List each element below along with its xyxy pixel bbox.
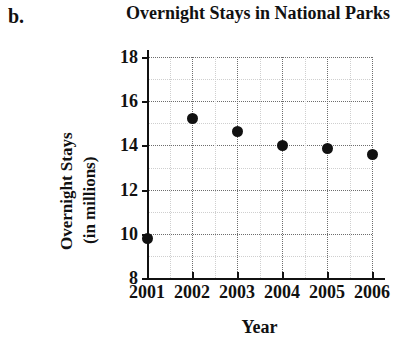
x-axis-tick-mark <box>147 272 149 278</box>
y-axis-tick-label: 18 <box>102 48 138 66</box>
y-axis-line <box>147 50 149 279</box>
part-label: b. <box>8 6 24 26</box>
data-point <box>367 149 378 160</box>
x-axis-title: Year <box>147 318 372 336</box>
data-point <box>232 126 243 137</box>
x-axis-tick-mark <box>372 272 374 278</box>
y-axis-tick-mark <box>142 57 148 59</box>
y-axis-tick-mark <box>142 234 148 236</box>
data-point <box>277 140 288 151</box>
y-axis-tick-mark <box>142 278 148 280</box>
plot-area <box>147 57 372 278</box>
y-axis-tick-label: 16 <box>102 92 138 110</box>
x-axis-tick-mark <box>237 272 239 278</box>
y-axis-title-line2: (in millions) <box>81 157 98 244</box>
y-axis-title-line1: Overnight Stays <box>58 132 75 250</box>
x-axis-tick-mark <box>327 272 329 278</box>
y-axis-tick-label: 12 <box>102 181 138 199</box>
x-axis-tick-label: 2006 <box>345 283 399 301</box>
gridline-vertical-major <box>372 57 373 278</box>
x-axis-line <box>145 278 385 280</box>
chart-title: Overnight Stays in National Parks <box>112 4 404 24</box>
data-point <box>322 143 333 154</box>
y-axis-tick-label: 14 <box>102 136 138 154</box>
x-axis-tick-mark <box>282 272 284 278</box>
y-axis-tick-mark <box>142 190 148 192</box>
y-axis-title: Overnight Stays (in millions) <box>36 72 108 252</box>
y-axis-tick-mark <box>142 101 148 103</box>
data-point <box>187 113 198 124</box>
x-axis-tick-mark <box>192 272 194 278</box>
y-axis-tick-label: 10 <box>102 225 138 243</box>
plot-background <box>147 57 372 278</box>
x-axis-tick-labels: 200120022003200420052006 <box>0 283 409 309</box>
y-axis-tick-mark <box>142 145 148 147</box>
